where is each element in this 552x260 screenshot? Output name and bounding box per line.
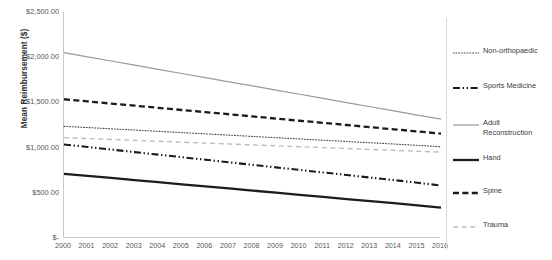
y-axis-tick-label: $1,000.00 bbox=[3, 144, 59, 152]
legend-label: Sports Medicine bbox=[483, 81, 536, 91]
legend-item-hand[interactable]: Hand bbox=[453, 153, 552, 166]
legend-swatch-icon bbox=[453, 221, 479, 233]
y-axis-tick-label: $500.00 bbox=[3, 189, 59, 197]
legend-label: Trauma bbox=[483, 220, 508, 230]
series-lines bbox=[64, 12, 441, 238]
x-axis-tick-label: 2003 bbox=[126, 241, 142, 250]
line-chart: Mean Reimbursement ($) $2,500.00$2,000.0… bbox=[0, 0, 552, 260]
legend-label: Spine bbox=[483, 186, 502, 196]
x-axis-tick-label: 2008 bbox=[244, 241, 260, 250]
legend-item-sports-medicine[interactable]: Sports Medicine bbox=[453, 81, 552, 94]
x-axis-tick-label: 2007 bbox=[220, 241, 236, 250]
legend-swatch-icon bbox=[453, 82, 479, 94]
x-axis-tick-label: 2006 bbox=[196, 241, 212, 250]
legend-item-trauma[interactable]: Trauma bbox=[453, 220, 552, 233]
y-axis-tick-label: $1,500.00 bbox=[3, 98, 59, 106]
y-axis-tick-labels: $2,500.00$2,000.00$1,500.00$1,000.00$500… bbox=[1, 0, 59, 260]
y-axis-tick-label: $- bbox=[3, 234, 59, 242]
y-axis-tick-label: $2,000.00 bbox=[3, 53, 59, 61]
x-axis-tick-label: 2013 bbox=[361, 241, 377, 250]
legend-swatch-icon bbox=[453, 187, 479, 199]
legend-label: Adult Reconstruction bbox=[483, 118, 532, 137]
plot-area bbox=[63, 12, 440, 238]
legend-swatch-icon bbox=[453, 119, 479, 131]
legend-item-adult-reconstruction[interactable]: Adult Reconstruction bbox=[453, 118, 552, 137]
legend-swatch-icon bbox=[453, 154, 479, 166]
y-axis-tick-label: $2,500.00 bbox=[3, 8, 59, 16]
legend-item-non-orthopaedic[interactable]: Non-orthopaedic bbox=[453, 46, 552, 59]
legend-swatch-icon bbox=[453, 47, 479, 59]
series-line-adult-reconstruction bbox=[64, 53, 441, 119]
x-axis-tick-label: 2005 bbox=[173, 241, 189, 250]
x-axis-tick-label: 2000 bbox=[55, 241, 71, 250]
x-axis-tick-label: 2014 bbox=[385, 241, 401, 250]
x-axis-tick-labels: 2000200120022003200420052006200720082009… bbox=[63, 241, 440, 257]
x-axis-tick-label: 2004 bbox=[149, 241, 165, 250]
x-axis-tick-label: 2011 bbox=[314, 241, 329, 250]
x-axis-tick-label: 2010 bbox=[291, 241, 307, 250]
x-axis-tick-label: 2002 bbox=[102, 241, 118, 250]
x-axis-tick-label: 2012 bbox=[338, 241, 354, 250]
chart-legend: Non-orthopaedicSports MedicineAdult Reco… bbox=[446, 18, 552, 250]
legend-label: Hand bbox=[483, 153, 501, 163]
legend-label: Non-orthopaedic bbox=[483, 46, 538, 56]
series-line-spine bbox=[64, 99, 441, 133]
x-axis-tick-label: 2015 bbox=[408, 241, 424, 250]
x-axis-tick-label: 2001 bbox=[79, 241, 95, 250]
legend-item-spine[interactable]: Spine bbox=[453, 186, 552, 199]
x-axis-tick-label: 2009 bbox=[267, 241, 283, 250]
